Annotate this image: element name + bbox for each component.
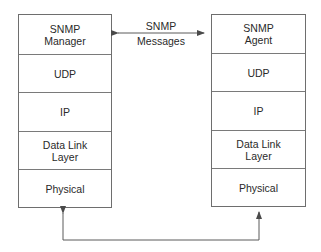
physical-link-connector [63, 212, 259, 240]
snmp-messages-label-line2: Messages [131, 35, 191, 47]
snmp-messages-label-line1: SNMP [131, 20, 191, 32]
